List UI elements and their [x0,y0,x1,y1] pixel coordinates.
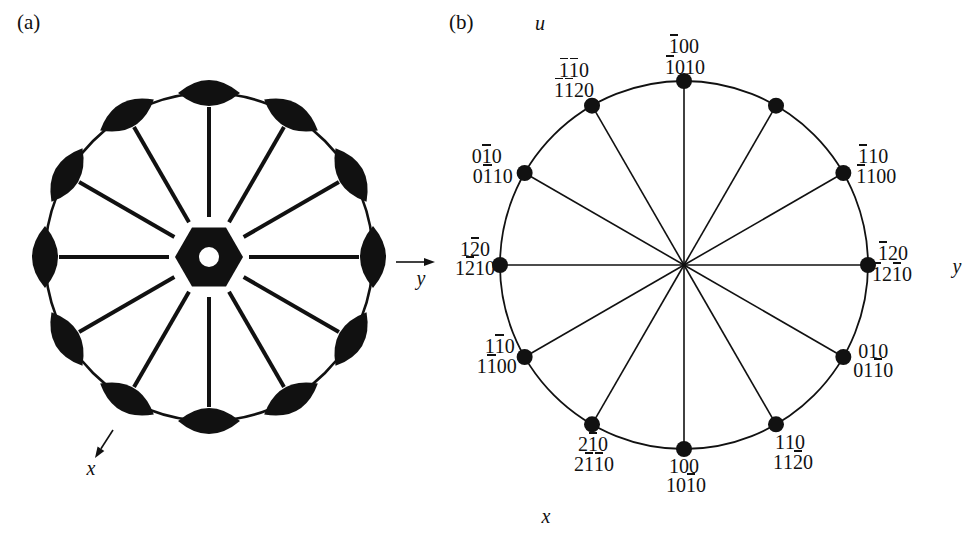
sixfold-axis-hole [199,247,219,267]
pole-marker [768,416,784,432]
twofold-symmetry-symbol [334,312,367,366]
panel-a-y-axis-arrow-head [424,258,435,266]
pole-label-miller-bravais: 1210 [455,258,495,278]
pole-label-miller-bravais: 1120 [773,452,813,472]
panel-a-x-axis-arrow-head [95,447,104,458]
pole-radius-line [684,106,776,265]
pole-label-miller-bravais: 0110 [853,360,893,380]
pole-label-miller: 010 [472,146,502,166]
radial-line [229,127,284,222]
twofold-symmetry-symbol [334,148,367,202]
panel-a-y-axis-label: y [417,268,426,288]
pole-radius-line [525,265,684,357]
pole-label-miller-bravais: 1100 [856,166,896,186]
pole-label-miller-bravais: 1100 [477,356,517,376]
radial-line [79,182,174,237]
pole-radius-line [592,265,684,424]
pole-label-miller-bravais: 1210 [872,264,912,284]
radial-line [134,292,189,387]
radial-line [244,182,339,237]
pole-radius-line [684,173,843,265]
pole-label-miller: 120 [460,239,490,259]
pole-radius-line [592,106,684,265]
pole-label-miller: 210 [578,434,608,454]
twofold-symmetry-symbol [50,312,83,366]
pole-label-miller: 110 [775,432,805,452]
pole-label-miller-bravais: 0110 [473,166,513,186]
radial-line [79,277,174,332]
twofold-symmetry-symbol [264,382,318,415]
pole-marker [584,416,600,432]
panel-b-x-axis-label: x [542,506,551,526]
panel-a-label: (a) [17,12,40,33]
twofold-symmetry-symbol [178,80,240,106]
pole-label-miller-bravais: 1120 [554,80,594,100]
pole-marker [835,349,851,365]
pole-label-miller: 110 [485,336,515,356]
pole-label-miller: 110 [858,146,888,166]
pole-label-miller: 100 [669,36,699,56]
pole-radius-line [684,265,843,357]
figure-canvas: (a) (b) y x u y x 1001010110112001001101… [0,0,971,537]
panel-a-x-axis-label: x [87,458,96,478]
twofold-symmetry-symbol [178,408,240,434]
pole-marker [835,165,851,181]
pole-label-miller: 110 [559,60,589,80]
pole-label-miller-bravais: 1010 [666,475,706,495]
pole-marker [517,349,533,365]
twofold-symmetry-symbol [32,226,58,288]
twofold-symmetry-symbol [360,226,386,288]
pole-radius-line [684,265,776,424]
panel-a-x-axis-arrow [101,430,113,449]
pole-marker [517,165,533,181]
pole-label-miller-bravais: 1010 [665,57,705,77]
pole-radius-line [525,173,684,265]
pole-label-miller-bravais: 2110 [574,454,614,474]
panel-b-label: (b) [449,12,474,33]
twofold-symmetry-symbol [264,98,318,131]
pole-marker [768,98,784,114]
twofold-symmetry-symbol [100,98,154,131]
pole-label-miller: 120 [878,243,908,263]
radial-line [244,277,339,332]
radial-line [134,127,189,222]
radial-line [229,292,284,387]
twofold-symmetry-symbol [100,382,154,415]
panel-b-u-axis-label: u [535,13,545,33]
panel-b-y-axis-label: y [953,256,962,276]
twofold-symmetry-symbol [50,148,83,202]
